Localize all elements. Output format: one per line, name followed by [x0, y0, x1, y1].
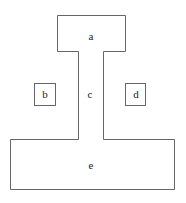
- floorplan-diagram: a b c d e: [0, 0, 186, 203]
- label-d: d: [133, 88, 139, 100]
- label-a: a: [89, 30, 94, 42]
- label-e: e: [89, 159, 94, 171]
- label-c: c: [88, 88, 93, 100]
- label-b: b: [42, 88, 48, 100]
